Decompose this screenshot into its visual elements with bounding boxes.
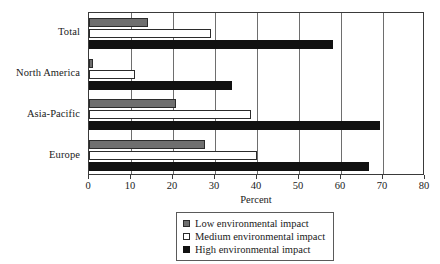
legend-item: Medium environmental impact	[183, 230, 325, 243]
x-axis-tick	[130, 175, 131, 179]
category-label: Europe	[49, 149, 80, 160]
bar-low	[89, 140, 205, 149]
x-axis-tick	[298, 175, 299, 179]
x-axis-tick-label: 70	[377, 180, 388, 192]
bar-chart: TotalNorth AmericaAsia-PacificEurope Per…	[0, 0, 440, 264]
plot-area	[88, 12, 424, 175]
x-axis-tick	[88, 175, 89, 179]
bar-high	[89, 81, 232, 90]
x-axis-tick	[340, 175, 341, 179]
category-label: North America	[16, 67, 80, 78]
legend-swatch-medium	[183, 233, 190, 240]
legend-label: High environmental impact	[195, 244, 310, 256]
gridline	[257, 13, 258, 174]
bar-medium	[89, 70, 135, 79]
x-axis-tick-label: 10	[125, 180, 136, 192]
legend-item: Low environmental impact	[183, 217, 325, 230]
x-axis-tick	[382, 175, 383, 179]
category-label: Total	[58, 26, 80, 37]
x-axis-tick-label: 0	[85, 180, 90, 192]
legend-label: Low environmental impact	[195, 218, 309, 230]
gridline	[299, 13, 300, 174]
x-axis-tick-label: 60	[335, 180, 346, 192]
legend-label: Medium environmental impact	[195, 231, 325, 243]
chart-legend: Low environmental impactMedium environme…	[176, 212, 334, 261]
legend-item: High environmental impact	[183, 243, 325, 256]
gridline	[383, 13, 384, 174]
x-axis-tick-label: 40	[251, 180, 262, 192]
bar-low	[89, 18, 148, 27]
bar-high	[89, 162, 369, 171]
x-axis-title: Percent	[88, 194, 424, 206]
legend-swatch-high	[183, 246, 190, 253]
bar-medium	[89, 29, 211, 38]
x-axis-tick	[214, 175, 215, 179]
category-axis: TotalNorth AmericaAsia-PacificEurope	[0, 12, 84, 175]
x-axis-tick-label: 50	[293, 180, 304, 192]
bar-medium	[89, 110, 251, 119]
bar-low	[89, 59, 93, 68]
category-label: Asia-Pacific	[27, 108, 80, 119]
x-axis-tick	[256, 175, 257, 179]
x-axis-tick-label: 30	[209, 180, 220, 192]
bar-high	[89, 121, 380, 130]
bar-low	[89, 99, 176, 108]
x-axis-tick-label: 20	[167, 180, 178, 192]
x-axis-tick-label: 80	[419, 180, 430, 192]
gridline	[215, 13, 216, 174]
x-axis-tick	[424, 175, 425, 179]
legend-swatch-low	[183, 220, 190, 227]
bar-high	[89, 40, 333, 49]
x-axis-tick	[172, 175, 173, 179]
gridline	[341, 13, 342, 174]
bar-medium	[89, 151, 257, 160]
